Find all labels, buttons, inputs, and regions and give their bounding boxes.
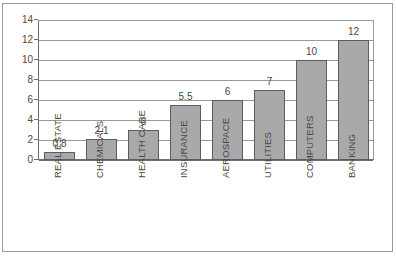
bar-value-label: 10 [286,47,337,57]
y-axis-tick-label: 2 [3,135,33,145]
y-axis-tick-label: 12 [3,35,33,45]
bar-value-label: 12 [328,27,379,37]
x-axis-category-label: UTILITIES [263,132,273,178]
gridline-0 [39,160,373,161]
x-axis-category-label: BANKING [347,134,357,178]
x-axis-category-label: INSURANCE [179,120,189,178]
x-axis-category-label: HEALTH CARE [137,110,147,178]
gridline-14 [39,20,373,21]
y-tick-mark-0 [34,159,38,160]
x-axis-category-label: AEROSPACE [221,118,231,178]
y-tick-mark-8 [34,79,38,80]
x-axis-category-label: REAL ESTATE [53,113,63,178]
y-axis-tick-label: 0 [3,155,33,165]
x-axis-category-label: COMPUTERS [305,116,315,179]
y-tick-mark-10 [34,59,38,60]
y-tick-mark-12 [34,39,38,40]
y-axis-tick-label: 10 [3,55,33,65]
bar-value-label: 7 [244,77,295,87]
y-axis-tick-label: 8 [3,75,33,85]
y-tick-mark-4 [34,119,38,120]
x-axis-category-label: CHEMICALS [95,121,105,178]
bar-value-label: 6 [202,87,253,97]
y-axis-tick-label: 4 [3,115,33,125]
y-axis-tick-label: 14 [3,15,33,25]
gridline-12 [39,40,373,41]
y-axis-tick-labels: 02468101214 [0,20,33,160]
y-axis-tick-label: 6 [3,95,33,105]
y-tick-mark-6 [34,99,38,100]
y-tick-mark-14 [34,19,38,20]
bar-chart-figure: 02468101214 0.82.135.5671012 REAL ESTATE… [0,0,396,256]
